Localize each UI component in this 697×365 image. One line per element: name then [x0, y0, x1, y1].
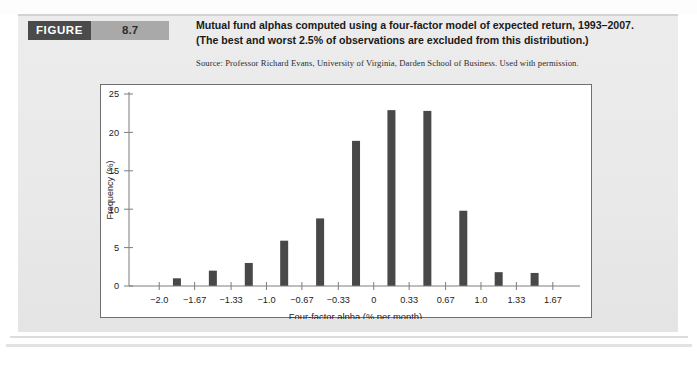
x-tick-label: 0.67 [437, 295, 455, 305]
figure-page: FIGURE 8.7 Mutual fund alphas computed u… [0, 0, 697, 365]
histogram-bar [352, 141, 360, 286]
histogram-bar [495, 272, 503, 286]
histogram-bar [459, 211, 467, 286]
figure-badge: FIGURE 8.7 [28, 21, 169, 40]
histogram-bar [280, 241, 288, 286]
x-tick-label: 1.67 [544, 295, 562, 305]
figure-title-line-1: Mutual fund alphas computed using a four… [196, 18, 676, 33]
figure-badge-number: 8.7 [91, 21, 169, 40]
figure-badge-word: FIGURE [28, 21, 91, 40]
histogram-bar [209, 271, 217, 286]
x-tick-label: −0.33 [327, 295, 350, 305]
figure-source: Source: Professor Richard Evans, Univers… [196, 58, 666, 68]
histogram-svg: 0510152025−2.0−1.67−1.33−1.0−0.67−0.3300… [101, 85, 593, 319]
bar-group [173, 110, 539, 286]
y-tick-label: 20 [109, 128, 119, 138]
chart-frame: 0510152025−2.0−1.67−1.33−1.0−0.67−0.3300… [100, 84, 592, 318]
histogram-bar [316, 218, 324, 286]
x-tick-label: −1.33 [219, 295, 242, 305]
x-tick-label: −2.0 [150, 295, 168, 305]
y-tick-label: 5 [114, 243, 119, 253]
x-tick-label: −1.0 [257, 295, 275, 305]
axis-group [124, 92, 580, 290]
histogram-bar [245, 263, 253, 286]
x-tick-label: −1.67 [183, 295, 206, 305]
y-tick-label: 25 [109, 89, 119, 99]
x-tick-label: −0.67 [290, 295, 313, 305]
histogram-bar [531, 273, 539, 286]
x-tick-label: 1.33 [507, 295, 525, 305]
x-axis-title: Four-factor alpha (% per month) [289, 311, 422, 319]
y-tick-label: 0 [114, 281, 119, 291]
y-axis-title: Frequency (%) [105, 160, 115, 219]
figure-title-line-2: (The best and worst 2.5% of observations… [196, 33, 676, 48]
figure-title: Mutual fund alphas computed using a four… [196, 18, 676, 49]
histogram-plot: 0510152025−2.0−1.67−1.33−1.0−0.67−0.3300… [101, 85, 593, 319]
bottom-rule-1 [10, 336, 688, 338]
bottom-rule-2 [6, 344, 692, 347]
histogram-bar [387, 110, 395, 286]
x-tick-label: 1.0 [475, 295, 488, 305]
x-tick-label: 0.33 [400, 295, 418, 305]
histogram-bar [173, 278, 181, 286]
histogram-bar [423, 111, 431, 286]
x-tick-label: 0 [371, 295, 376, 305]
page-top-band [0, 0, 697, 14]
